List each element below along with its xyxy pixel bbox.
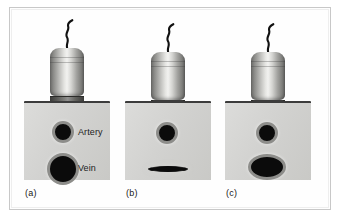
probe-seam bbox=[251, 66, 285, 67]
vein-label: Vein bbox=[78, 163, 96, 173]
probe-cable-icon bbox=[151, 22, 185, 54]
vein-partially-compressed-cross-section bbox=[248, 154, 286, 180]
probe-seam bbox=[151, 66, 185, 67]
probe-seam bbox=[251, 61, 285, 62]
panel-caption-a: (a) bbox=[25, 188, 37, 198]
probe-seam bbox=[151, 61, 185, 62]
probe-seam bbox=[50, 62, 84, 63]
artery-cross-section bbox=[156, 122, 178, 144]
probe-body bbox=[251, 52, 285, 100]
probe-seam bbox=[50, 57, 84, 58]
artery-cross-section bbox=[52, 121, 74, 143]
vein-collapsed-cross-section bbox=[148, 166, 188, 172]
artery-label: Artery bbox=[78, 127, 103, 137]
panel-caption-c: (c) bbox=[226, 188, 237, 198]
artery-cross-section bbox=[256, 122, 278, 144]
panel-b: (b) bbox=[115, 8, 221, 211]
probe-cable-icon bbox=[50, 18, 84, 50]
figure-ultrasound-vein-compression: Artery Vein (a) bbox=[0, 0, 340, 219]
probe-cable-icon bbox=[251, 22, 285, 54]
panel-caption-b: (b) bbox=[126, 188, 138, 198]
probe-body bbox=[151, 52, 185, 100]
panel-c: (c) bbox=[215, 8, 321, 211]
probe-body bbox=[50, 48, 84, 96]
panel-a: Artery Vein (a) bbox=[14, 8, 120, 211]
figure-frame: Artery Vein (a) bbox=[9, 7, 331, 210]
vein-cross-section bbox=[47, 153, 79, 185]
